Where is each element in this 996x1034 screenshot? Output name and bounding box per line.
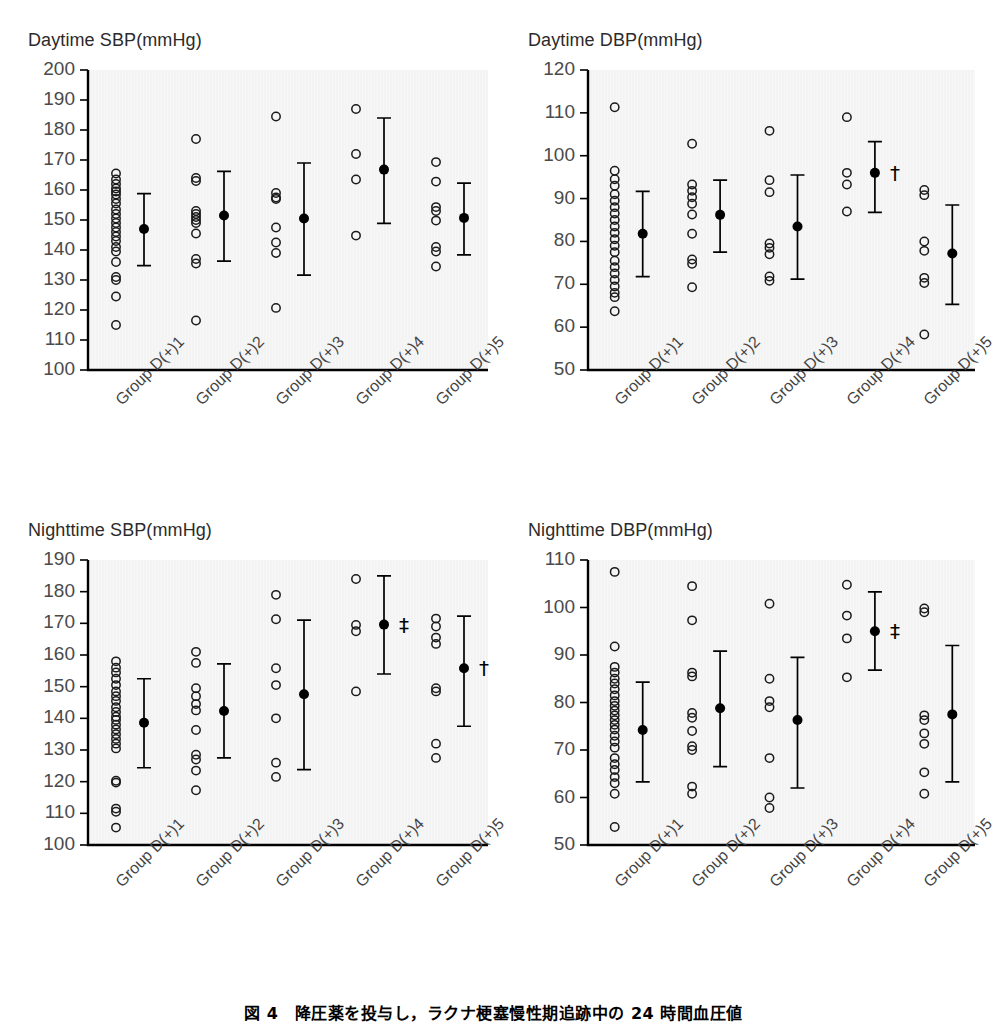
mean-marker (870, 626, 880, 636)
mean-marker (379, 165, 389, 175)
y-tick-label: 90 (554, 643, 575, 664)
mean-marker (638, 725, 648, 735)
y-tick-label: 70 (554, 738, 575, 759)
xaxis-nighttime-dbp: Group D(+)1Group D(+)2Group D(+)3Group D… (500, 874, 987, 969)
y-tick-label: 160 (43, 643, 75, 664)
figure-caption: 図 4 降圧薬を投与し，ラクナ梗塞慢性期追跡中の 24 時間血圧値 (0, 1000, 987, 1024)
y-tick-label: 120 (43, 770, 75, 791)
y-tick-label: 110 (545, 101, 575, 122)
panel-title-daytime-dbp: Daytime DBP(mmHg) (528, 30, 703, 51)
mean-marker (299, 214, 309, 224)
y-tick-label: 170 (43, 148, 75, 169)
y-tick-label: 170 (43, 611, 75, 632)
y-tick-label: 70 (554, 272, 575, 293)
mean-marker (715, 703, 725, 713)
panel-title-nighttime-dbp: Nighttime DBP(mmHg) (528, 520, 713, 541)
y-tick-label: 200 (43, 60, 75, 79)
y-tick-label: 140 (43, 706, 75, 727)
mean-marker (638, 229, 648, 239)
y-tick-label: 190 (43, 88, 75, 109)
mean-marker (379, 620, 389, 630)
mean-marker (870, 168, 880, 178)
mean-marker (139, 224, 149, 234)
mean-marker (793, 715, 803, 725)
y-tick-label: 150 (43, 208, 75, 229)
mean-marker (947, 248, 957, 258)
y-tick-label: 60 (554, 315, 575, 336)
mean-marker (793, 221, 803, 231)
y-tick-label: 130 (43, 268, 75, 289)
y-tick-label: 60 (554, 786, 575, 807)
panel-title-nighttime-sbp: Nighttime SBP(mmHg) (28, 520, 212, 541)
mean-marker (947, 709, 957, 719)
y-tick-label: 50 (554, 358, 575, 379)
significance-marker: † (890, 161, 900, 185)
mean-marker (219, 706, 229, 716)
y-tick-label: 150 (43, 675, 75, 696)
mean-marker (139, 718, 149, 728)
significance-marker: ‡ (890, 619, 900, 643)
y-tick-label: 100 (543, 596, 575, 617)
y-tick-label: 110 (545, 550, 575, 569)
mean-marker (299, 689, 309, 699)
y-tick-label: 80 (554, 229, 575, 250)
y-tick-label: 100 (43, 358, 75, 379)
xaxis-nighttime-sbp: Group D(+)1Group D(+)2Group D(+)3Group D… (0, 874, 500, 969)
y-tick-label: 180 (43, 118, 75, 139)
plot-background (588, 70, 975, 370)
y-tick-label: 190 (43, 550, 75, 569)
y-tick-label: 100 (543, 144, 575, 165)
y-tick-label: 80 (554, 691, 575, 712)
y-tick-label: 130 (43, 738, 75, 759)
panel-title-daytime-sbp: Daytime SBP(mmHg) (28, 30, 202, 51)
plot-background (588, 560, 975, 845)
mean-marker (219, 211, 229, 221)
y-tick-label: 110 (45, 328, 75, 349)
significance-marker: ‡ (399, 613, 409, 637)
y-tick-label: 120 (543, 60, 575, 79)
mean-marker (715, 210, 725, 220)
y-tick-label: 90 (554, 187, 575, 208)
mean-marker (459, 213, 469, 223)
y-tick-label: 120 (43, 298, 75, 319)
xaxis-daytime-dbp: Group D(+)1Group D(+)2Group D(+)3Group D… (500, 392, 987, 487)
y-tick-label: 100 (43, 833, 75, 854)
y-tick-label: 180 (43, 580, 75, 601)
y-tick-label: 110 (45, 801, 75, 822)
y-tick-label: 140 (43, 238, 75, 259)
xaxis-daytime-sbp: Group D(+)1Group D(+)2Group D(+)3Group D… (0, 392, 500, 487)
significance-marker: † (479, 656, 489, 680)
y-tick-label: 160 (43, 178, 75, 199)
mean-marker (459, 663, 469, 673)
y-tick-label: 50 (554, 833, 575, 854)
